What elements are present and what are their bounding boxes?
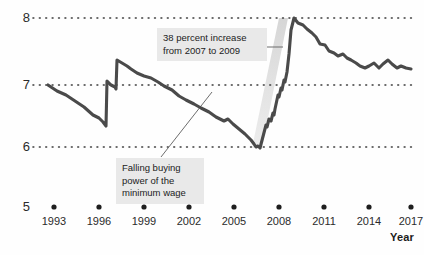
x-axis-label-2002: 2002 (167, 215, 211, 227)
x-axis-label-2008: 2008 (257, 215, 301, 227)
y-axis-label-8: 8 (12, 11, 30, 24)
x-axis-label-2011: 2011 (302, 215, 346, 227)
x-axis-label-1993: 1993 (32, 215, 76, 227)
x-axis-label-2017: 2017 (389, 215, 424, 227)
annotation-falling-buying-power: Falling buying power of the minimum wage (116, 158, 204, 204)
y-axis-label-7: 7 (12, 78, 30, 91)
annotation-increase: 38 percent increase from 2007 to 2009 (157, 28, 267, 61)
x-axis-label-1999: 1999 (122, 215, 166, 227)
x-axis-label-2014: 2014 (347, 215, 391, 227)
chart-container: 8 7 6 5 1993 1996 1999 2002 2005 2008 20… (0, 0, 424, 255)
x-axis-title: Year (390, 231, 414, 243)
x-axis-label-1996: 1996 (77, 215, 121, 227)
y-axis-label-5: 5 (12, 200, 30, 213)
y-axis-label-6: 6 (12, 140, 30, 153)
x-axis-label-2005: 2005 (212, 215, 256, 227)
x-tick-marks (51, 204, 413, 209)
